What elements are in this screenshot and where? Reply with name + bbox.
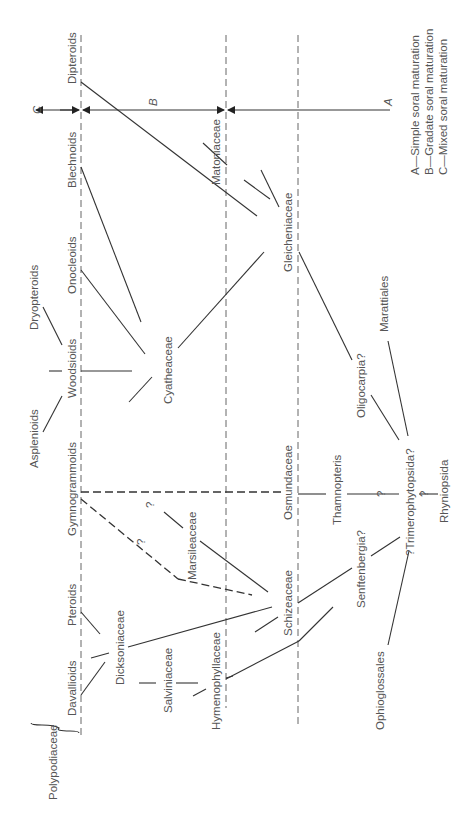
question-mark-thamnopteris: ? xyxy=(375,491,387,497)
label-marsileaceae: Marsileaceae xyxy=(186,512,198,580)
question-mark-gymnogrammoid-dashed: ? xyxy=(135,539,147,545)
label-dryopteroids: Dryopteroids xyxy=(28,265,40,330)
branch-hymenophyllaceae-tick xyxy=(193,689,206,696)
label-ophioglossales: Ophioglossales xyxy=(374,651,386,730)
branch-marattiales-trimerophytopsida xyxy=(388,341,408,436)
label-gymnogrammoids: Gymnogrammoids xyxy=(66,442,78,536)
label-matoniaceae: Matoniaceae xyxy=(210,119,222,185)
fern-phylogeny-diagram: Dipteroids Blechnoids Onocleoids Dryopte… xyxy=(0,0,468,828)
label-schizeaceae: Schizeaceae xyxy=(282,570,294,636)
label-thamnopteris: Thamnopteris xyxy=(331,454,343,525)
branch-senftenbergia-trimerophytopsida xyxy=(371,537,400,556)
branch-gleicheniaceae-oligocarpia xyxy=(299,252,352,360)
branch-dicksoniaceae-tick xyxy=(91,653,109,658)
label-woodsioids: Woodsioids xyxy=(66,339,78,398)
label-hymenophyllaceae: Hymenophyllaceae xyxy=(210,632,222,730)
branch-dicksoniaceae-schizeaceae xyxy=(128,607,272,647)
label-davallioids: Davallioids xyxy=(66,660,78,716)
branch-matoniaceae-c xyxy=(261,170,279,207)
branch-asplenioids xyxy=(43,396,62,432)
label-trimerophytopsida: ?Trimerophytopsida? xyxy=(404,448,416,556)
branch-cyatheaceae-low xyxy=(129,377,152,402)
arrow-label-c: C xyxy=(31,105,43,114)
label-onocleoids: Onocleoids xyxy=(66,236,78,294)
arrow-label-a: A xyxy=(382,98,394,107)
branch-davallioids xyxy=(81,662,105,695)
branch-schizeaceae-low xyxy=(255,617,278,632)
arrow-label-b: B xyxy=(147,98,159,106)
branch-dryopteroids xyxy=(43,307,62,345)
branch-matoniaceae-b xyxy=(244,180,270,199)
branch-oligocarpia-trimerophytopsida xyxy=(371,395,399,440)
branch-schizeaceae-lower xyxy=(299,607,333,641)
question-mark-rhyniopsida: ? xyxy=(418,491,430,497)
label-rhyniopsida: Rhyniopsida xyxy=(438,459,450,523)
label-dicksoniaceae: Dicksoniaceae xyxy=(114,610,126,685)
label-polypodiaceae: Polypodiaceae xyxy=(47,725,59,800)
label-asplenioids: Asplenioids xyxy=(28,409,40,468)
branch-pteroids xyxy=(81,612,100,634)
label-dipteroids: Dipteroids xyxy=(66,32,78,84)
branch-marsileaceae-schizeaceae xyxy=(200,541,268,592)
branch-cyatheaceae-gleicheniaceae xyxy=(178,252,264,348)
branch-schizeaceae-senftenbergia xyxy=(298,568,352,603)
legend-item-c: C—Mixed soral maturation xyxy=(437,39,449,175)
branch-ophioglossales-trimerophytopsida xyxy=(388,551,409,645)
label-oligocarpia: Oligocarpia? xyxy=(355,353,367,418)
legend-item-b: B—Gradate soral maturation xyxy=(423,29,435,175)
branch-dipteroids xyxy=(81,82,257,216)
label-senftenbergia: Senftenbergia? xyxy=(355,530,367,608)
label-cyatheaceae: Cyatheaceae xyxy=(162,336,174,404)
question-mark-marsileaceae-upper: ? xyxy=(144,502,156,508)
label-gleicheniaceae: Gleicheniaceae xyxy=(282,193,294,272)
label-osmundaceae: Osmundaceae xyxy=(282,445,294,520)
branch-marsileaceae-tick xyxy=(164,512,183,528)
branch-blechnoids xyxy=(81,167,141,322)
branch-onocleoids xyxy=(81,270,145,354)
branch-hymenophyllaceae-schizeaceae xyxy=(226,641,299,679)
branch-gymnogrammoids-marsileaceae xyxy=(81,499,178,579)
legend: A—Simple soral maturation B—Gradate sora… xyxy=(409,29,449,175)
label-blechnoids: Blechnoids xyxy=(66,131,78,188)
branch-marsileaceae-schizeaceae-dashed xyxy=(178,579,252,595)
label-marattiales: Marattiales xyxy=(378,276,390,332)
legend-item-a: A—Simple soral maturation xyxy=(409,35,421,175)
label-salviniaceae: Salviniaceae xyxy=(162,648,174,713)
label-pteroids: Pteroids xyxy=(66,584,78,626)
